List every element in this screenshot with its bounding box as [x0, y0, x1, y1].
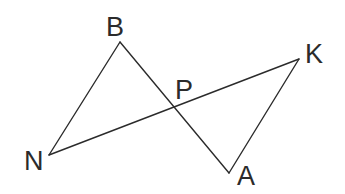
segment-NK: [49, 59, 299, 155]
label-P: P: [175, 75, 193, 105]
geometry-diagram: B N K A P: [0, 0, 345, 194]
segment-KA: [229, 59, 299, 173]
label-B: B: [106, 12, 124, 42]
segment-NB: [49, 42, 120, 155]
label-A: A: [237, 161, 255, 191]
label-N: N: [24, 146, 44, 176]
label-K: K: [305, 39, 323, 69]
